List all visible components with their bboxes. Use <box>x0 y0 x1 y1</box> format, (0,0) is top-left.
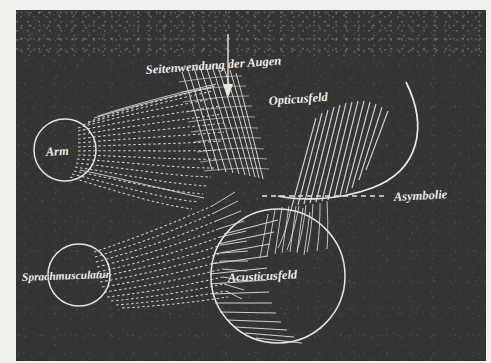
label-asymbolie: Asymbolie <box>392 187 448 204</box>
label-arm: Arm <box>44 144 69 159</box>
arm-fibre-bundle <box>70 87 224 209</box>
label-acusticusfeld: Acusticusfeld <box>226 267 298 285</box>
label-seitenwendung-der-augen: Seitenwendung der Augen <box>145 54 281 77</box>
seitenwendung-fibre-bundle <box>182 66 263 179</box>
sprachmusculatur-fibre-bundle <box>94 206 228 308</box>
engraved-plate: Seitenwendung der Augen Opticusfeld Arm … <box>16 10 486 361</box>
label-opticusfeld: Opticusfeld <box>268 90 329 108</box>
label-sprachmusculatur: Sprachmusculatur <box>22 268 111 284</box>
plate-drawing: Seitenwendung der Augen Opticusfeld Arm … <box>16 10 486 361</box>
opticusfeld-hatching <box>292 101 388 206</box>
figure-root: Seitenwendung der Augen Opticusfeld Arm … <box>0 0 491 363</box>
